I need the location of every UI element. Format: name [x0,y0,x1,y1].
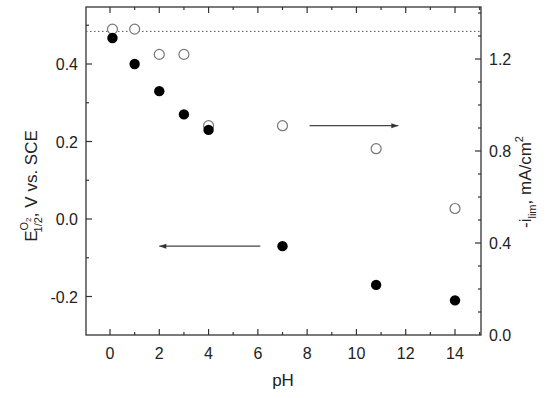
y-left-tick-label: -0.2 [50,289,78,306]
x-tick-label: 8 [303,345,312,362]
filled-circle-point [371,280,381,290]
annotation-arrows [159,123,398,248]
y-right-tick-label: 0.4 [489,235,511,252]
y-left-tick-label: 0.4 [56,56,78,73]
y-left-label-rest: , V vs. SCE [22,130,41,217]
x-tick-label: 6 [253,345,262,362]
y-axis-left-label: EO21/2, V vs. SCE [18,130,44,242]
y-right-label-subscript: lim [526,204,538,218]
y-right-label-prefix: -i [516,219,535,228]
open-circle-point [371,144,381,154]
chart: 02468101214 -0.20.00.20.4 0.00.40.81.2 p… [0,0,557,398]
arrow-right-head-icon [391,123,398,128]
y-left-tick-label: 0.0 [56,211,78,228]
y-right-label-rest: , mA/cm [516,142,535,204]
y-right-tick-label: 0.8 [489,143,511,160]
svg-text:EO21/2, V vs. SCE: EO21/2, V vs. SCE [18,130,44,242]
y-left-tick-label: 0.2 [56,134,78,151]
x-tick-label: 12 [397,345,415,362]
y-right-tick-label: 1.2 [489,51,511,68]
y-right-tick-label: 0.0 [489,327,511,344]
arrow-left-head-icon [159,244,166,249]
filled-circle-point [129,59,139,69]
filled-circle-point [107,33,117,43]
open-circle-point [278,121,288,131]
y-axis-right-label: -ilim, mA/cm2 [513,136,538,228]
open-circle-point [130,24,140,34]
x-tick-label: 0 [106,345,115,362]
plot-frame [86,7,481,335]
x-tick-label: 4 [204,345,213,362]
filled-circle-point [450,295,460,305]
open-circle-point [154,49,164,59]
open-circle-point [179,49,189,59]
svg-text:-ilim, mA/cm2: -ilim, mA/cm2 [513,136,538,228]
x-axis: 02468101214 [106,7,480,362]
open-circle-point [450,204,460,214]
x-axis-label: pH [272,371,294,390]
filled-circle-point [154,86,164,96]
y-left-label-subscript: 1/2 [32,217,44,232]
x-tick-label: 10 [348,345,366,362]
x-tick-label: 14 [446,345,464,362]
data-points [107,24,460,305]
filled-circle-point [277,241,287,251]
plot-border [86,7,481,335]
filled-circle-point [179,109,189,119]
y-right-label-superscript: 2 [513,136,525,142]
open-circle-point [107,24,117,34]
x-tick-label: 2 [155,345,164,362]
filled-circle-point [203,125,213,135]
